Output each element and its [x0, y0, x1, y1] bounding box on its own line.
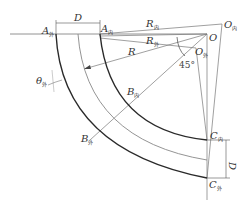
label-a-outer: A外	[41, 25, 54, 38]
label-b-outer: B外	[80, 133, 93, 146]
label-d-top: D	[73, 12, 82, 23]
label-r-outer: R外	[145, 35, 159, 48]
theta-tangent	[52, 70, 54, 92]
diagram-canvas: A外 A内 D R内 R外 R O内 O O外 45° θ外 B内 B外 C内 …	[0, 0, 246, 212]
label-theta-outer: θ外	[36, 75, 47, 88]
arrowhead-icon	[84, 65, 91, 69]
label-r-inner: R内	[145, 18, 159, 31]
vertical-line-outer	[196, 48, 207, 140]
construction-drawing: A外 A内 D R内 R外 R O内 O O外 45° θ外 B内 B外 C内 …	[0, 0, 246, 212]
radius-line-inner	[100, 24, 222, 34]
label-o: O	[209, 32, 217, 43]
label-c-inner: C内	[210, 130, 223, 143]
label-r: R	[127, 46, 136, 57]
theta-arc	[48, 80, 62, 85]
label-c-outer: C外	[209, 179, 222, 192]
label-b-inner: B内	[126, 86, 139, 99]
label-angle: 45°	[179, 60, 195, 70]
center-arc	[78, 34, 207, 160]
diagonal-45-line	[90, 34, 207, 140]
label-o-inner: O内	[224, 19, 237, 32]
vertical-line-inner	[207, 24, 222, 178]
inner-arc	[100, 34, 207, 140]
label-d-right: D	[227, 161, 238, 170]
